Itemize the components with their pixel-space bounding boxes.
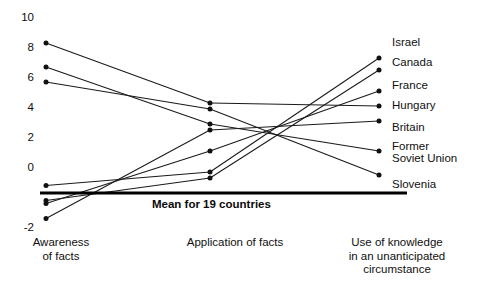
ytick-label-4: 4 (8, 102, 34, 114)
data-point-marker (44, 41, 49, 46)
series-segment (46, 151, 210, 204)
ytick-label-10: 10 (8, 12, 34, 24)
series-segment (210, 70, 379, 178)
ytick-label-8: 8 (8, 42, 34, 54)
series-label-france: France (392, 79, 428, 91)
data-point-marker (208, 176, 213, 181)
data-point-marker (208, 149, 213, 154)
series-label-israel: Israel (392, 36, 420, 48)
data-point-marker (208, 107, 213, 112)
ytick-label-2: 2 (8, 132, 34, 144)
data-point-marker (377, 68, 382, 73)
series-label-canada: Canada (392, 56, 432, 68)
series-segment (46, 43, 210, 103)
column-label-awareness: Awareness of facts (6, 236, 116, 263)
ytick-label-0: 0 (8, 162, 34, 174)
slopegraph-chart: 10 8 6 4 2 0 -2 Israel Canada France Hun… (0, 0, 481, 284)
data-point-marker (208, 122, 213, 127)
series-segment (210, 124, 379, 151)
column-label-application: Application of facts (155, 236, 315, 250)
data-point-marker (44, 80, 49, 85)
data-point-marker (208, 128, 213, 133)
series-segment (210, 121, 379, 130)
data-point-marker (377, 119, 382, 124)
data-point-marker (44, 216, 49, 221)
series-segment (210, 58, 379, 172)
data-point-marker (377, 89, 382, 94)
data-point-marker (44, 201, 49, 206)
data-point-marker (44, 65, 49, 70)
column-label-use-of-knowledge: Use of knowledge in an unanticipated cir… (322, 236, 472, 277)
series-label-britain: Britain (392, 121, 425, 133)
data-point-marker (208, 101, 213, 106)
series-label-former-soviet-union: Former Soviet Union (392, 140, 457, 165)
data-point-marker (377, 173, 382, 178)
series-label-slovenia: Slovenia (392, 178, 436, 190)
series-segment (46, 82, 210, 109)
data-point-marker (377, 104, 382, 109)
data-point-marker (44, 183, 49, 188)
series-label-hungary: Hungary (392, 99, 435, 111)
data-point-marker (208, 170, 213, 175)
series-segment (210, 103, 379, 106)
data-point-marker (377, 56, 382, 61)
ytick-label-minus2: -2 (8, 222, 34, 234)
ytick-label-6: 6 (8, 72, 34, 84)
mean-line-annotation: Mean for 19 countries (152, 198, 271, 210)
data-point-marker (377, 149, 382, 154)
